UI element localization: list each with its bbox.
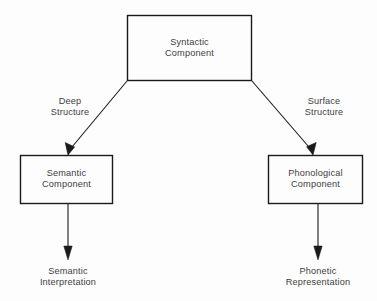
- phonological-component-box: [269, 156, 363, 204]
- diagram-canvas: [0, 0, 377, 301]
- deep-structure-arrow: [65, 81, 127, 155]
- semantic-interpretation-arrow: [64, 204, 72, 260]
- phonetic-representation-arrow: [314, 204, 322, 260]
- grammar-model-diagram: Syntactic Component Semantic Component P…: [0, 0, 377, 301]
- semantic-component-box: [21, 156, 113, 204]
- surface-structure-arrow: [252, 81, 316, 155]
- syntactic-component-box: [128, 16, 252, 81]
